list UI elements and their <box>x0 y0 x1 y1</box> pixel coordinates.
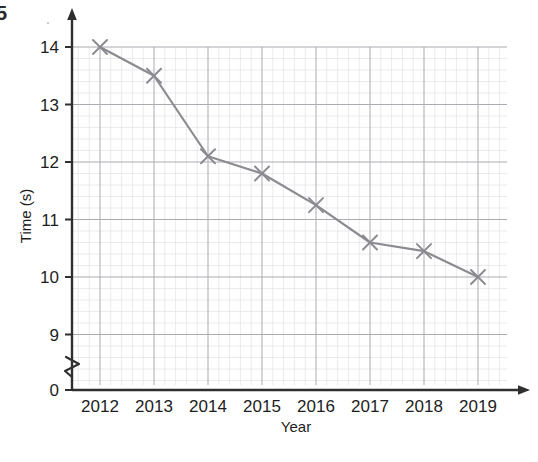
y-tick-label: 10 <box>40 268 59 287</box>
x-tick-label: 2018 <box>405 397 443 416</box>
x-tick-label: 2015 <box>243 397 281 416</box>
x-axis <box>72 385 530 395</box>
grid-major <box>72 47 507 385</box>
figure-container: 5 091011121314 2012201320142015201620172… <box>0 0 538 462</box>
x-tick-label: 2012 <box>81 397 119 416</box>
y-tick-label: 13 <box>40 96 59 115</box>
y-tick-labels: 091011121314 <box>40 38 59 400</box>
y-tick-label: 0 <box>50 381 59 400</box>
y-tick-label: 12 <box>40 153 59 172</box>
y-tick-label: 14 <box>40 38 59 57</box>
y-axis-title: Time (s) <box>17 189 34 243</box>
x-tick-labels: 20122013201420152016201720182019 <box>81 397 497 416</box>
x-tick-label: 2014 <box>189 397 227 416</box>
y-axis <box>67 8 77 390</box>
y-tick-label: 11 <box>41 211 59 230</box>
x-axis-title: Year <box>281 418 311 435</box>
x-tick-label: 2019 <box>459 397 497 416</box>
line-chart: 091011121314 201220132014201520162017201… <box>0 0 538 462</box>
y-tick-label: 9 <box>50 326 59 345</box>
x-tick-label: 2017 <box>351 397 389 416</box>
x-tick-label: 2016 <box>297 397 335 416</box>
x-tick-label: 2013 <box>135 397 173 416</box>
